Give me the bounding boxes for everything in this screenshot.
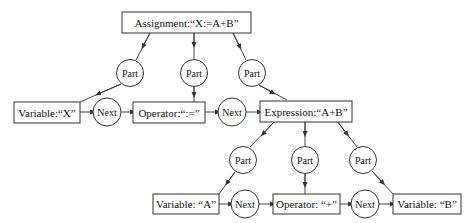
relation-next-1: Next: [93, 98, 121, 126]
relation-label: Part: [244, 68, 260, 79]
node-label: Expression:“A+B”: [264, 106, 347, 118]
relation-part-6: Part: [350, 147, 377, 174]
relation-label: Part: [186, 68, 202, 79]
relation-label: Next: [222, 107, 242, 118]
relation-label: Next: [355, 199, 375, 210]
relation-label: Part: [297, 155, 313, 166]
node-operator-assign: Operator:“:=”: [133, 102, 205, 123]
node-label: Variable:“X”: [18, 107, 76, 119]
node-label: Assignment:“X:=A+B”: [134, 17, 238, 29]
relation-part-1: Part: [117, 60, 144, 87]
relation-next-4: Next: [351, 190, 379, 218]
relation-part-2: Part: [181, 60, 208, 87]
node-label: Variable: “A”: [156, 198, 216, 210]
relation-part-5: Part: [292, 147, 319, 174]
node-variable-x: Variable:“X”: [14, 102, 80, 123]
node-variable-b: Variable: “B”: [393, 194, 461, 214]
relation-part-3: Part: [239, 60, 266, 87]
node-operator-plus: Operator: “+”: [273, 194, 340, 214]
relation-label: Next: [235, 199, 255, 210]
relation-label: Part: [235, 155, 251, 166]
node-expression: Expression:“A+B”: [260, 101, 352, 122]
node-assignment: Assignment:“X:=A+B”: [122, 12, 251, 33]
parse-tree-diagram: Assignment:“X:=A+B” Variable:“X” Operato…: [0, 0, 474, 223]
relation-next-3: Next: [231, 190, 259, 218]
node-label: Operator:“:=”: [138, 107, 199, 119]
node-label: Operator: “+”: [276, 198, 337, 210]
node-variable-a: Variable: “A”: [153, 194, 219, 214]
relation-label: Next: [97, 107, 117, 118]
relation-label: Part: [122, 68, 138, 79]
relation-next-2: Next: [218, 98, 246, 126]
node-label: Variable: “B”: [397, 198, 457, 210]
relation-label: Part: [355, 155, 371, 166]
relation-part-4: Part: [230, 147, 257, 174]
